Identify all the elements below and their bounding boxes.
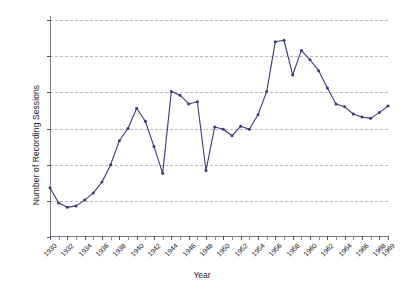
x-tick-label: 1936 [94, 242, 110, 258]
data-point [144, 120, 147, 123]
data-point [317, 69, 320, 72]
x-tick-mark [93, 237, 94, 240]
data-point [83, 199, 86, 202]
x-tick-label: 1956 [268, 242, 284, 258]
x-tick-label: 1944 [164, 242, 180, 258]
x-tick-label: 1962 [320, 242, 336, 258]
data-point [291, 73, 294, 76]
x-tick-mark [163, 237, 164, 240]
x-tick-mark [301, 237, 302, 240]
data-point [49, 186, 52, 189]
x-tick-mark [76, 237, 77, 240]
x-tick-label: 1946 [181, 242, 197, 258]
x-tick-label: 1954 [250, 242, 266, 258]
data-point [309, 58, 312, 61]
x-tick-label: 1966 [354, 242, 370, 258]
data-point [274, 40, 277, 43]
data-point [205, 169, 208, 172]
series-markers [49, 39, 390, 209]
x-tick-mark [215, 237, 216, 240]
x-tick-mark [353, 237, 354, 240]
data-point [326, 86, 329, 89]
data-point [239, 125, 242, 128]
data-point [265, 90, 268, 93]
x-tick-label: 1952 [233, 242, 249, 258]
x-tick-label: 1964 [337, 242, 353, 258]
x-tick-mark [336, 237, 337, 240]
x-tick-mark [111, 237, 112, 240]
x-tick-mark [128, 237, 129, 240]
data-point [257, 113, 260, 116]
data-point [300, 49, 303, 52]
data-point [369, 117, 372, 120]
x-tick-mark [232, 237, 233, 240]
data-point [101, 181, 104, 184]
x-tick-mark [267, 237, 268, 240]
data-point [170, 90, 173, 93]
data-point [179, 94, 182, 97]
y-axis-title: Number of Recording Sessions [31, 45, 41, 245]
x-tick-mark [388, 236, 389, 240]
data-point [127, 127, 130, 130]
x-axis-title: Year [0, 270, 404, 280]
x-tick-label: 1958 [285, 242, 301, 258]
data-series [50, 20, 388, 237]
x-tick-label: 1938 [112, 242, 128, 258]
data-point [66, 206, 69, 209]
x-tick-mark [284, 237, 285, 240]
x-tick-label: 1932 [60, 242, 76, 258]
plot-area: 050010001500200025003000 193019321934193… [50, 20, 388, 237]
x-tick-mark [197, 237, 198, 240]
data-point [118, 139, 121, 142]
x-tick-mark [371, 237, 372, 240]
x-tick-mark [249, 237, 250, 240]
x-tick-mark [319, 237, 320, 240]
data-point [343, 105, 346, 108]
x-tick-mark [59, 237, 60, 240]
x-tick-label: 1942 [146, 242, 162, 258]
data-point [335, 102, 338, 105]
data-point [187, 102, 190, 105]
x-tick-label: 1960 [302, 242, 318, 258]
data-point [222, 128, 225, 131]
data-point [283, 39, 286, 42]
data-point [231, 134, 234, 137]
data-point [378, 111, 381, 114]
data-point [57, 202, 60, 205]
data-point [153, 145, 156, 148]
x-tick-label: 1940 [129, 242, 145, 258]
x-tick-label: 1930 [42, 242, 58, 258]
data-point [109, 163, 112, 166]
data-point [352, 113, 355, 116]
data-point [75, 204, 78, 207]
data-point [161, 172, 164, 175]
data-point [387, 105, 390, 108]
x-tick-label: 1948 [198, 242, 214, 258]
x-tick-mark [180, 237, 181, 240]
data-point [213, 126, 216, 129]
x-tick-label: 1934 [77, 242, 93, 258]
data-point [248, 128, 251, 131]
data-point [135, 107, 138, 110]
line-chart: Number of Recording Sessions 05001000150… [0, 0, 404, 289]
x-tick-mark [145, 237, 146, 240]
x-tick-label: 1950 [216, 242, 232, 258]
data-point [92, 191, 95, 194]
data-point [361, 115, 364, 118]
data-point [196, 100, 199, 103]
